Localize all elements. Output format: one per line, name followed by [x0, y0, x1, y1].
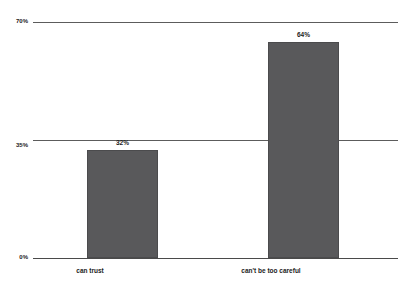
bar-value-label-can-trust: 32%: [87, 139, 158, 147]
x-axis-label-cant-be-too-careful: can't be too careful: [237, 267, 305, 275]
chart-title: [0, 0, 411, 2]
bar-value-label-cant-be-too-careful: 64%: [268, 31, 339, 39]
bar-can-trust[interactable]: [87, 150, 158, 258]
y-axis-label-35: 35%: [0, 142, 28, 149]
y-axis-label-0: 0%: [0, 254, 28, 261]
axis-baseline-0: [33, 258, 398, 259]
gridline-70: [33, 22, 398, 23]
y-axis-label-70: 70%: [0, 18, 28, 25]
bar-cant-be-too-careful[interactable]: [268, 42, 339, 258]
bar-chart: 70% 35% 0% 32% 64% can trust can't be to…: [0, 0, 411, 289]
x-axis-label-can-trust: can trust: [56, 267, 124, 275]
plot-area: 32% 64%: [33, 22, 398, 258]
